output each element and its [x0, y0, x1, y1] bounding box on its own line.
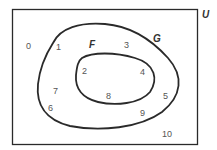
universe-label: U [202, 9, 210, 20]
element-8: 8 [106, 91, 111, 101]
element-1: 1 [56, 42, 61, 52]
element-3: 3 [124, 40, 129, 50]
universe-rectangle [13, 10, 198, 145]
set-g-label: G [153, 33, 161, 44]
element-2: 2 [82, 66, 87, 76]
element-0: 0 [26, 41, 31, 51]
venn-diagram: U G F 0 1 3 2 4 7 8 5 6 9 10 [0, 0, 217, 150]
element-9: 9 [140, 108, 145, 118]
element-6: 6 [48, 103, 53, 113]
set-f-boundary [76, 54, 154, 104]
element-10: 10 [162, 129, 172, 139]
element-7: 7 [53, 86, 58, 96]
set-f-label: F [89, 39, 96, 50]
element-5: 5 [163, 91, 168, 101]
element-4: 4 [140, 67, 145, 77]
